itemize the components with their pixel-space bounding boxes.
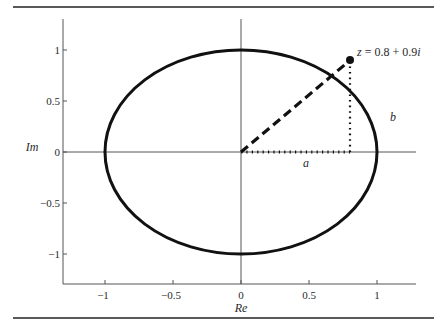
y-tick-label: 1 xyxy=(55,44,61,56)
y-tick-label: 0 xyxy=(55,146,61,158)
point-z-label-value: = 0.8 + 0.9 xyxy=(362,45,418,59)
y-tick-labels: 1 0.5 0 −0.5 −1 xyxy=(40,44,60,260)
x-tick-label: 0.5 xyxy=(302,289,316,301)
y-axis-title: Im xyxy=(25,140,39,154)
point-z xyxy=(346,56,354,64)
label-b: b xyxy=(390,110,396,124)
y-ticks xyxy=(63,50,67,254)
x-tick-label: −1 xyxy=(97,289,109,301)
complex-plane-figure: −1 −0.5 0 0.5 1 1 0.5 0 −0.5 −1 Re Im z xyxy=(0,0,446,331)
x-tick-label: −0.5 xyxy=(161,289,181,301)
x-ticks xyxy=(105,280,377,284)
x-tick-label: 1 xyxy=(374,289,380,301)
x-axis-title: Re xyxy=(234,301,248,315)
x-tick-label: 0 xyxy=(238,289,244,301)
vector-dashed-line xyxy=(241,62,348,152)
point-z-label-i: i xyxy=(417,45,420,59)
y-tick-label: 0.5 xyxy=(46,95,60,107)
x-tick-labels: −1 −0.5 0 0.5 1 xyxy=(97,289,380,301)
y-tick-label: −1 xyxy=(48,248,60,260)
point-z-label: z = 0.8 + 0.9i xyxy=(356,45,421,59)
y-tick-label: −0.5 xyxy=(40,197,60,209)
label-a: a xyxy=(303,156,309,170)
chart-svg: −1 −0.5 0 0.5 1 1 0.5 0 −0.5 −1 Re Im z xyxy=(0,0,446,331)
